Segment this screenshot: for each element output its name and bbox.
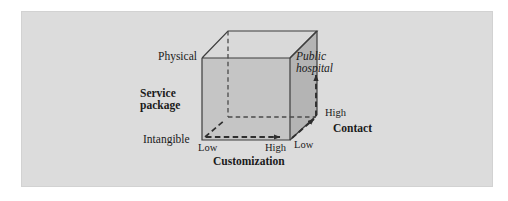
annotation-public-hospital-line2: hospital [296, 62, 333, 74]
axis-tick-contact-high: High [325, 107, 346, 118]
axis-title-service-package: Service package [140, 87, 180, 112]
cube-diagram-svg [0, 0, 508, 201]
axis-tick-intangible: Intangible [143, 133, 190, 145]
axis-tick-customization-high: High [265, 142, 286, 153]
axis-tick-customization-low: Low [198, 142, 217, 153]
axis-tick-contact-low: Low [294, 139, 313, 150]
axis-title-contact: Contact [333, 122, 372, 134]
axis-title-service-package-line1: Service [140, 87, 180, 99]
axis-title-service-package-line2: package [140, 99, 180, 111]
axis-title-customization: Customization [213, 155, 285, 167]
annotation-public-hospital: Public hospital [296, 50, 333, 75]
axis-tick-physical: Physical [158, 50, 197, 62]
figure-root: Physical Service package Intangible Publ… [0, 0, 508, 201]
annotation-public-hospital-line1: Public [296, 50, 333, 62]
